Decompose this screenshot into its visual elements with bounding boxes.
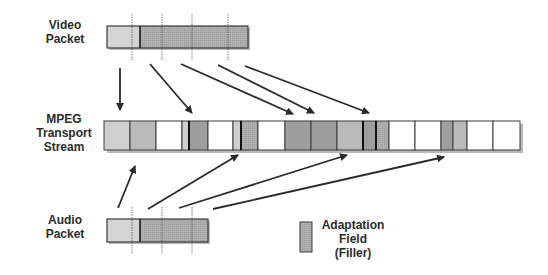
arrow-icon bbox=[148, 155, 238, 209]
stream-cell bbox=[130, 121, 156, 150]
stream-cell bbox=[258, 121, 285, 150]
stream-cell bbox=[453, 121, 467, 150]
stream-cell bbox=[233, 121, 241, 150]
audio-packet-header bbox=[107, 219, 140, 242]
arrow-icon bbox=[179, 155, 347, 208]
audio-packet-payload bbox=[140, 219, 208, 242]
mux-diagram bbox=[0, 0, 548, 275]
stream-cell bbox=[389, 121, 415, 150]
stream-cell bbox=[241, 121, 258, 150]
stream-cell bbox=[337, 121, 363, 150]
video-packet-payload bbox=[140, 26, 248, 48]
arrow-icon bbox=[181, 64, 293, 114]
arrow-icon bbox=[218, 65, 314, 113]
stream-cell bbox=[208, 121, 233, 150]
adaptation-field-swatch bbox=[300, 222, 312, 252]
stream-cell bbox=[415, 121, 441, 150]
stream-cell bbox=[441, 121, 453, 150]
stream-cell bbox=[493, 121, 520, 150]
stream-cell bbox=[182, 121, 189, 150]
stream-cell bbox=[376, 121, 389, 150]
stream-cell bbox=[363, 121, 376, 150]
stream-cell bbox=[156, 121, 182, 150]
audio-packet bbox=[107, 207, 210, 254]
transport-stream bbox=[104, 121, 523, 153]
stream-cell bbox=[104, 121, 130, 150]
video-packet-header bbox=[107, 26, 140, 48]
stream-cell bbox=[311, 121, 337, 150]
stream-cell bbox=[189, 121, 208, 150]
arrow-icon bbox=[150, 64, 192, 113]
arrow-icon bbox=[118, 166, 135, 208]
stream-cell bbox=[467, 121, 493, 150]
legend-swatch bbox=[300, 222, 312, 252]
stream-cell bbox=[285, 121, 311, 150]
arrow-icon bbox=[245, 66, 369, 113]
arrow-icon bbox=[213, 157, 444, 209]
video-packet bbox=[107, 14, 250, 60]
